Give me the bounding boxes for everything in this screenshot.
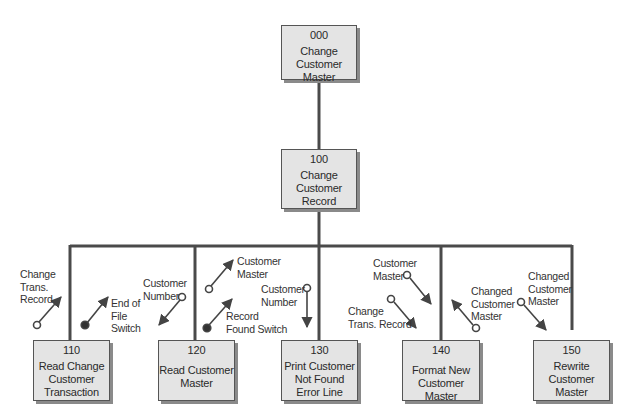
couple-label: End of File Switch [111, 297, 141, 335]
module-name: Print Customer Not Found Error Line [284, 360, 355, 399]
module-110: 110 Read Change Customer Transaction [33, 340, 110, 401]
couple-label: Changed Customer Master [528, 270, 572, 308]
module-number: 150 [563, 344, 581, 357]
data-couple-icon [206, 260, 234, 293]
module-number: 130 [311, 344, 329, 357]
module-100: 100 Change Customer Record [281, 149, 357, 209]
couple-label: Change Trans. Record [348, 305, 412, 330]
module-130: 130 Print Customer Not Found Error Line [281, 340, 358, 401]
module-number: 120 [188, 344, 206, 357]
module-name: Change Customer Master [296, 45, 342, 84]
module-number: 000 [310, 29, 328, 42]
couple-label: Customer Number [261, 283, 305, 308]
module-number: 140 [432, 344, 450, 357]
module-number: 100 [310, 153, 328, 166]
couple-label: Customer Master [373, 257, 417, 282]
couple-label: Record Found Switch [226, 310, 287, 335]
module-name: Change Customer Record [296, 169, 342, 208]
module-number: 110 [63, 344, 80, 357]
module-140: 140 Format New Customer Master [402, 340, 480, 401]
couple-label: Customer Master [237, 255, 281, 280]
control-flag-icon [81, 297, 108, 329]
couple-label: Customer Number [143, 277, 187, 302]
module-150: 150 Rewrite Customer Master [533, 340, 610, 401]
module-name: Read Customer Master [159, 364, 233, 390]
module-name: Read Change Customer Transaction [39, 360, 105, 399]
structure-chart: 000 Change Customer Master 100 Change Cu… [0, 0, 636, 420]
couple-label: Change Trans. Record [20, 268, 56, 306]
module-000: 000 Change Customer Master [281, 25, 357, 80]
module-name: Rewrite Customer Master [548, 360, 594, 399]
module-120: 120 Read Customer Master [158, 340, 235, 401]
couple-label: Changed Customer Master [471, 285, 515, 323]
module-name: Format New Customer Master [403, 364, 479, 403]
